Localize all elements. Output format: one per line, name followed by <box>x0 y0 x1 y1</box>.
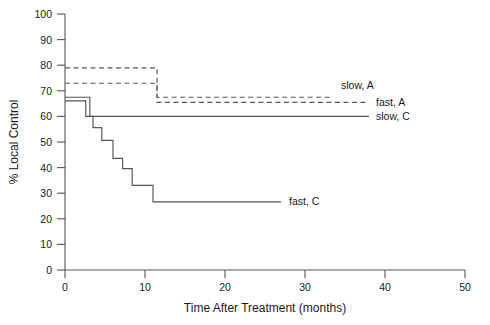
series-label-fast-c: fast, C <box>289 195 320 207</box>
y-tick-label-60: 60 <box>40 110 52 122</box>
x-tick-label-40: 40 <box>379 281 391 293</box>
x-tick-label-0: 0 <box>62 281 68 293</box>
y-tick-label-0: 0 <box>46 264 52 276</box>
series-label-fast-a: fast, A <box>376 96 405 108</box>
y-tick-label-40: 40 <box>40 162 52 174</box>
series-curve-fast-a <box>65 83 369 102</box>
x-tick-label-10: 10 <box>139 281 151 293</box>
y-tick-label-30: 30 <box>40 187 52 199</box>
x-axis-title: Time After Treatment (months) <box>184 301 346 315</box>
series-label-slow-a: slow, A <box>341 79 374 91</box>
y-tick-label-80: 80 <box>40 59 52 71</box>
series-label-slow-c: slow, C <box>376 110 410 122</box>
chart-container: 100 90 80 70 60 50 40 30 20 10 0 0 10 20… <box>0 0 490 325</box>
y-axis-title: % Local Control <box>7 100 21 185</box>
y-axis-ticks <box>57 14 65 270</box>
x-tick-label-30: 30 <box>299 281 311 293</box>
y-axis-tick-labels: 100 90 80 70 60 50 40 30 20 10 0 <box>34 8 52 276</box>
x-tick-label-50: 50 <box>459 281 471 293</box>
series-curve-slow-c <box>65 97 369 116</box>
y-tick-label-100: 100 <box>34 8 52 20</box>
series-annotations: slow, A fast, A slow, C fast, C <box>289 79 410 207</box>
y-tick-label-50: 50 <box>40 136 52 148</box>
axes-frame <box>65 14 465 270</box>
kaplan-meier-chart: 100 90 80 70 60 50 40 30 20 10 0 0 10 20… <box>0 0 490 325</box>
y-tick-label-90: 90 <box>40 34 52 46</box>
x-tick-label-20: 20 <box>219 281 231 293</box>
series-curve-slow-a <box>65 68 333 97</box>
x-axis-tick-labels: 0 10 20 30 40 50 <box>62 281 471 293</box>
y-tick-label-10: 10 <box>40 238 52 250</box>
y-tick-label-70: 70 <box>40 85 52 97</box>
y-tick-label-20: 20 <box>40 213 52 225</box>
x-axis-ticks <box>65 270 465 278</box>
series-group <box>65 68 369 202</box>
